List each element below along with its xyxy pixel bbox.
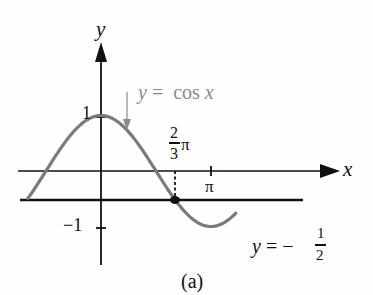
x-axis-label: x xyxy=(343,159,352,180)
line-eq-y: y xyxy=(252,235,261,257)
cos-eq-x: x xyxy=(205,81,214,103)
figure: y x 1 −1 y = cos x 2 3 π π y = − 1 2 (a) xyxy=(0,0,373,295)
line-frac-bar xyxy=(315,244,326,246)
line-frac-denominator: 2 xyxy=(316,248,324,263)
y-tick-label-minus-1: −1 xyxy=(63,216,82,234)
frac-pi-label: π xyxy=(181,136,190,153)
y-axis-label: y xyxy=(96,19,105,40)
x-tick-label-pi: π xyxy=(205,178,214,195)
y-axis-arrow-icon xyxy=(95,42,107,62)
intersection-point xyxy=(170,196,180,204)
frac-2-3-numerator: 2 xyxy=(170,125,178,141)
figure-caption: (a) xyxy=(181,271,203,291)
y-tick-label-1: 1 xyxy=(82,104,91,122)
frac-2-3-denominator: 3 xyxy=(170,146,178,162)
line-frac-numerator: 1 xyxy=(317,226,325,241)
cos-equation-label: y = cos x xyxy=(138,82,214,102)
frac-2-3-bar xyxy=(169,142,180,144)
cos-eq-y: y xyxy=(138,81,147,103)
line-eq-eq: = − xyxy=(261,235,294,257)
x-axis-arrow-icon xyxy=(320,164,340,178)
cos-eq-rest: = cos xyxy=(147,81,205,103)
line-equation-label: y = − xyxy=(252,236,293,256)
